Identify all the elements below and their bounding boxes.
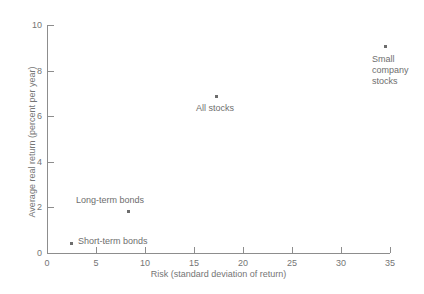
y-tick-6 [48, 116, 54, 117]
y-tick-label-10: 10 [20, 20, 42, 30]
x-tick-label-30: 30 [329, 258, 353, 268]
y-tick-10 [48, 25, 54, 26]
datapoint-long-term-bonds [127, 210, 130, 213]
point-label-long-term-bonds: Long-term bonds [76, 195, 144, 206]
y-tick-0 [48, 253, 54, 254]
x-tick-label-20: 20 [231, 258, 255, 268]
x-tick-15 [194, 247, 195, 253]
datapoint-all-stocks [215, 95, 218, 98]
point-label-small-company-stocks-line3: stocks [372, 76, 398, 87]
x-tick-0 [47, 247, 48, 253]
x-tick-label-25: 25 [280, 258, 304, 268]
x-tick-30 [341, 247, 342, 253]
x-axis-title: Risk (standard deviation of return) [47, 269, 390, 279]
y-tick-label-0: 0 [20, 248, 42, 258]
datapoint-small-company-stocks [384, 45, 387, 48]
x-tick-label-10: 10 [133, 258, 157, 268]
y-tick-2 [48, 207, 54, 208]
x-tick-20 [243, 247, 244, 253]
scatter-chart: 0 2 4 6 8 10 0 5 10 15 20 25 30 35 Avera… [0, 0, 424, 294]
x-tick-label-0: 0 [35, 258, 59, 268]
y-tick-4 [48, 162, 54, 163]
datapoint-short-term-bonds [70, 242, 73, 245]
x-tick-label-15: 15 [182, 258, 206, 268]
point-label-short-term-bonds: Short-term bonds [78, 236, 148, 247]
x-tick-label-35: 35 [378, 258, 402, 268]
point-label-all-stocks: All stocks [196, 103, 234, 114]
y-tick-8 [48, 71, 54, 72]
y-axis-title: Average real return (percent per year) [27, 42, 37, 242]
x-tick-5 [96, 247, 97, 253]
x-tick-10 [145, 247, 146, 253]
point-label-small-company-stocks-line2: company [372, 65, 409, 76]
point-label-small-company-stocks-line1: Small [372, 54, 395, 65]
x-tick-label-5: 5 [84, 258, 108, 268]
x-tick-25 [292, 247, 293, 253]
y-axis-line [47, 25, 48, 254]
x-axis-line [47, 253, 390, 254]
x-tick-35 [390, 247, 391, 253]
